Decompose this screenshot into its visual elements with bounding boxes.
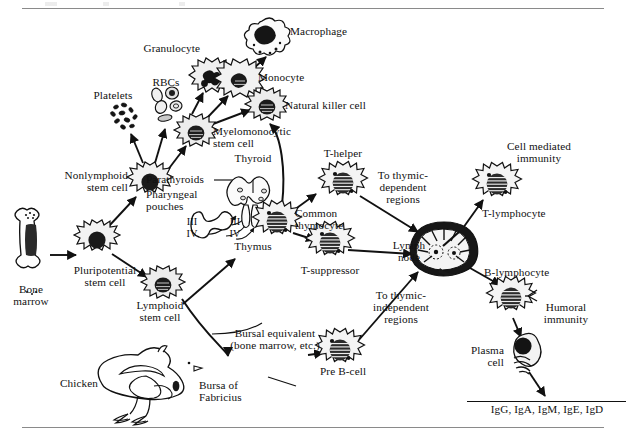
arrow-lymphoid-to-bursa-curve bbox=[182, 299, 228, 356]
label-chicken: Chicken bbox=[60, 378, 98, 390]
label-lymphoid-stem-cell: Lymphoid stem cell bbox=[137, 300, 184, 324]
label-cell-mediated-immunity: Cell mediated immunity bbox=[507, 141, 571, 165]
label-lymph-node: Lymph node bbox=[393, 240, 425, 264]
label-bursal-equivalent: Bursal equivalent (bone marrow, etc.) bbox=[230, 328, 320, 352]
arrow-plasmacell-to-immunoglobulins bbox=[529, 372, 545, 396]
label-monocyte: Monocyte bbox=[258, 72, 304, 84]
label-natural-killer-cell: Natural killer cell bbox=[285, 100, 366, 112]
label-plasma-cell: Plasma cell bbox=[471, 345, 504, 369]
label-bursa-of-fabricius: Bursa of Fabricius bbox=[199, 380, 242, 404]
label-rbcs: RBCs bbox=[152, 77, 179, 89]
label-pouch-iii-right: III bbox=[230, 217, 241, 228]
myelomonocytic-stem-cell-glyph bbox=[174, 114, 218, 146]
macrophage-glyph bbox=[244, 18, 289, 55]
label-parathyroids: Parathyroids bbox=[146, 174, 204, 186]
label-to-thymic-independent: To thymic- independent regions bbox=[373, 290, 429, 326]
arrow-pluripotential-to-nonlymphoid bbox=[109, 197, 136, 226]
label-macrophage: Macrophage bbox=[290, 26, 347, 38]
arrow-nonlymphoid-to-rbcs bbox=[155, 129, 165, 163]
label-pouch-iv-right: IV bbox=[229, 229, 240, 240]
arrow-lymphnode-to-tlymphocyte bbox=[463, 200, 483, 228]
chicken-glyph bbox=[98, 346, 202, 425]
label-t-suppressor: T-suppressor bbox=[301, 265, 360, 277]
arrow-myelomonocytic-to-granulocyte bbox=[192, 93, 203, 114]
label-thymus: Thymus bbox=[234, 241, 271, 253]
bottom-rule bbox=[22, 427, 604, 428]
immunoglobulins-underline bbox=[467, 401, 626, 402]
label-pluripotential-stem-cell: Pluripotential stem cell bbox=[74, 265, 136, 289]
label-t-lymphocyte: T-lymphocyte bbox=[482, 208, 546, 220]
bone-marrow-glyph bbox=[15, 208, 40, 295]
label-pharyngeal-pouches: Pharyngeal pouches bbox=[146, 189, 197, 213]
plasma-cell-glyph bbox=[514, 333, 541, 374]
pre-b-cell-glyph bbox=[316, 329, 365, 362]
label-t-helper: T-helper bbox=[324, 148, 362, 160]
label-immunoglobulins: IgG, IgA, IgM, IgE, IgD bbox=[491, 404, 604, 416]
arrow-lymphoid-to-thymus bbox=[183, 259, 235, 304]
label-thyroid: Thyroid bbox=[235, 153, 272, 165]
label-platelets: Platelets bbox=[94, 90, 133, 102]
pluripotential-stem-cell-glyph bbox=[74, 220, 120, 250]
label-nonlymphoid-stem-cell: Nonlymphoid stem cell bbox=[65, 170, 128, 194]
t-helper-glyph bbox=[319, 162, 368, 195]
label-pre-b-cell: Pre B-cell bbox=[320, 366, 366, 378]
arrow-blymphocyte-to-plasmacell bbox=[513, 318, 521, 337]
label-pouch-iii-left: III bbox=[187, 217, 198, 228]
label-to-thymic-dependent: To thymic- dependent regions bbox=[378, 170, 428, 206]
label-pouch-iv-left: IV bbox=[186, 229, 197, 240]
page-edge-artifact bbox=[22, 2, 604, 6]
platelets-glyph bbox=[110, 102, 138, 130]
arrow-myelomonocytic-to-nk bbox=[213, 110, 250, 124]
rbcs-glyph bbox=[150, 87, 183, 122]
leader-bursa-of-fabricius bbox=[268, 377, 296, 386]
top-rule bbox=[22, 8, 604, 9]
label-common-thymocyte: Common thymocyte bbox=[295, 208, 343, 232]
figure-canvas: Bone marrow Pluripotential stem cell Non… bbox=[0, 0, 626, 439]
lymphoid-stem-cell-glyph bbox=[141, 266, 185, 298]
t-lymphocyte-glyph bbox=[473, 163, 522, 196]
label-granulocyte: Granulocyte bbox=[143, 43, 200, 55]
label-humoral-immunity: Humoral immunity bbox=[544, 302, 588, 326]
arrow-nonlymphoid-to-myelomonocytic bbox=[167, 146, 186, 171]
label-bone-marrow: Bone marrow bbox=[13, 284, 48, 308]
arrow-myelomonocytic-to-monocyte bbox=[207, 96, 228, 118]
label-myelomonocytic-stem-cell: Myelomonocytic stem cell bbox=[213, 126, 291, 150]
arrow-nonlymphoid-to-platelets bbox=[131, 134, 143, 163]
label-b-lymphocyte: B-lymphocyte bbox=[484, 267, 549, 279]
